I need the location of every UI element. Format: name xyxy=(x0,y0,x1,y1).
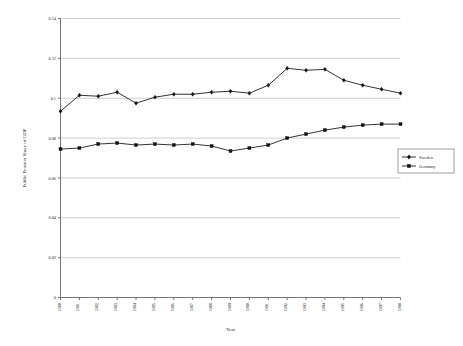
data-point-marker-diamond xyxy=(229,89,232,93)
data-point-marker-diamond xyxy=(210,90,213,94)
data-series xyxy=(59,66,402,152)
legend-label-sweden[interactable]: Sweden xyxy=(419,155,434,160)
data-point-marker-diamond xyxy=(361,83,364,87)
x-tick-label: 1984 xyxy=(132,302,137,311)
y-tick-label: 0.14 xyxy=(48,16,56,21)
data-point-marker-diamond xyxy=(304,68,307,72)
x-tick-label: 1982 xyxy=(94,303,99,312)
data-point-marker-diamond xyxy=(97,94,100,98)
x-tick-label: 1980 xyxy=(57,303,62,312)
data-point-marker-square xyxy=(407,164,410,167)
data-point-marker-square xyxy=(305,133,308,136)
data-point-marker-square xyxy=(210,145,213,148)
y-tick-label: 0.08 xyxy=(48,136,56,141)
series-germany xyxy=(59,123,402,153)
data-point-marker-square xyxy=(78,147,81,150)
y-tick-label: 0.04 xyxy=(48,215,56,220)
data-point-marker-square xyxy=(135,144,138,147)
data-point-marker-square xyxy=(97,143,100,146)
x-tick-label: 1986 xyxy=(170,302,175,311)
series-line-germany xyxy=(61,124,401,151)
data-point-marker-diamond xyxy=(172,92,175,96)
x-tick-label: 1994 xyxy=(321,302,326,311)
data-point-marker-square xyxy=(267,144,270,147)
data-point-marker-diamond xyxy=(399,91,402,95)
x-tick-label: 1993 xyxy=(302,303,307,312)
x-axis-title: Year xyxy=(226,327,236,332)
y-tick-label: 0.1 xyxy=(51,96,56,101)
series-sweden xyxy=(59,66,402,113)
y-tick-label: 0.02 xyxy=(48,255,56,260)
data-point-marker-square xyxy=(248,147,251,150)
x-tick-label: 1998 xyxy=(397,303,402,312)
x-tick-label: 1985 xyxy=(151,303,156,312)
y-tick-label: 0.06 xyxy=(48,176,56,181)
data-point-marker-diamond xyxy=(191,92,194,96)
x-tick-label: 1995 xyxy=(340,303,345,312)
data-point-marker-square xyxy=(399,123,402,126)
data-point-marker-diamond xyxy=(116,90,119,94)
x-tick-label: 1996 xyxy=(359,302,364,311)
data-point-marker-square xyxy=(342,126,345,129)
data-point-marker-diamond xyxy=(342,78,345,82)
data-point-marker-diamond xyxy=(153,95,156,99)
data-point-marker-diamond xyxy=(323,67,326,71)
data-point-marker-square xyxy=(116,142,119,145)
x-tick-label: 1983 xyxy=(113,303,118,312)
data-point-marker-square xyxy=(380,123,383,126)
gridlines xyxy=(61,19,401,258)
data-point-marker-square xyxy=(172,144,175,147)
x-tick-label: 1990 xyxy=(245,303,250,312)
pension-share-line-chart: 00.020.040.060.080.10.120.14 19801981198… xyxy=(0,0,463,346)
data-point-marker-diamond xyxy=(248,91,251,95)
x-tick-label: 1991 xyxy=(264,303,269,312)
x-tick-label: 1981 xyxy=(75,303,80,312)
chart-container: 00.020.040.060.080.10.120.14 19801981198… xyxy=(0,0,463,346)
y-axis-ticks: 00.020.040.060.080.10.120.14 xyxy=(48,16,60,300)
x-tick-label: 1989 xyxy=(227,303,232,312)
x-tick-label: 1997 xyxy=(378,302,383,311)
data-point-marker-square xyxy=(59,148,62,151)
legend-label-germany[interactable]: Germany xyxy=(419,164,436,169)
y-tick-label: 0.12 xyxy=(48,56,56,61)
x-tick-label: 1992 xyxy=(283,303,288,312)
data-point-marker-square xyxy=(286,137,289,140)
chart-legend[interactable]: SwedenGermany xyxy=(398,149,454,173)
data-point-marker-square xyxy=(323,129,326,132)
x-tick-label: 1988 xyxy=(208,303,213,312)
x-tick-label: 1987 xyxy=(189,302,194,311)
x-axis-ticks: 1980198119821983198419851986198719881989… xyxy=(57,298,402,312)
axes xyxy=(61,19,401,298)
data-point-marker-square xyxy=(191,143,194,146)
y-tick-label: 0 xyxy=(54,295,56,300)
data-point-marker-square xyxy=(361,124,364,127)
y-axis-title: Public Pension Share of GDP xyxy=(22,128,27,187)
data-point-marker-square xyxy=(229,150,232,153)
data-point-marker-diamond xyxy=(380,87,383,91)
data-point-marker-diamond xyxy=(134,101,137,105)
data-point-marker-square xyxy=(153,143,156,146)
legend-box xyxy=(398,149,454,173)
